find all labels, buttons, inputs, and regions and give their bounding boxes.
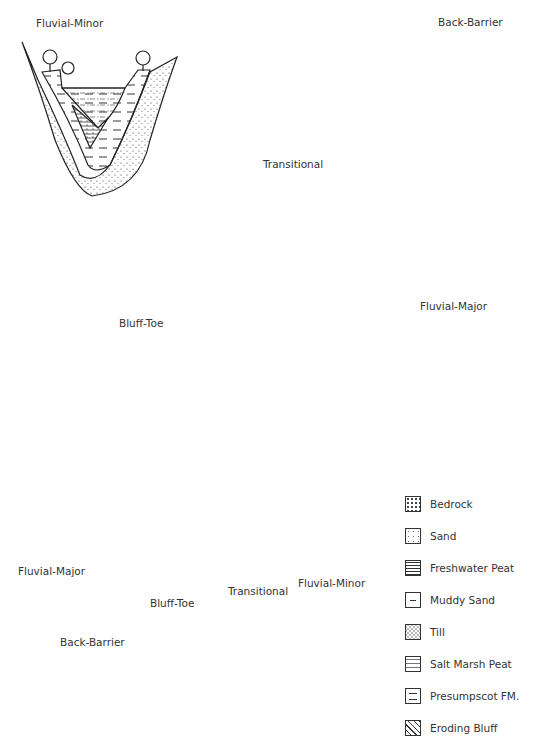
bedrock-swatch-icon bbox=[405, 496, 421, 512]
map-label-fluvial-major: Fluvial-Major bbox=[18, 565, 85, 577]
map-label-bluff-toe: Bluff-Toe bbox=[150, 597, 194, 609]
till-swatch-icon bbox=[405, 624, 421, 640]
fluvial-minor-section bbox=[22, 42, 177, 196]
transitional-title: Transitional bbox=[263, 158, 323, 170]
sand-swatch-icon bbox=[405, 528, 421, 544]
legend-item-salt-marsh-peat: Salt Marsh Peat bbox=[405, 648, 555, 680]
legend-item-muddy-sand: Muddy Sand bbox=[405, 584, 555, 616]
muddy-sand-swatch-icon bbox=[405, 592, 421, 608]
legend-item-sand: Sand bbox=[405, 520, 555, 552]
fluvial-major-title: Fluvial-Major bbox=[420, 300, 487, 312]
legend-item-freshwater-peat: Freshwater Peat bbox=[405, 552, 555, 584]
eroding-bluff-swatch-icon bbox=[405, 720, 421, 736]
legend-item-bedrock: Bedrock bbox=[405, 488, 555, 520]
presumpscot-swatch-icon bbox=[405, 688, 421, 704]
legend-item-till: Till bbox=[405, 616, 555, 648]
map-label-transitional: Transitional bbox=[228, 585, 288, 597]
salt-marsh-peat-swatch-icon bbox=[405, 656, 421, 672]
legend-item-eroding-bluff: Eroding Bluff bbox=[405, 712, 555, 744]
back-barrier-title: Back-Barrier bbox=[438, 16, 503, 28]
fluvial-minor-title: Fluvial-Minor bbox=[36, 17, 103, 29]
freshwater-peat-swatch-icon bbox=[405, 560, 421, 576]
map-label-back-barrier: Back-Barrier bbox=[60, 636, 125, 648]
map-label-fluvial-minor: Fluvial-Minor bbox=[298, 577, 365, 589]
legend: Bedrock Sand Freshwater Peat Muddy Sand … bbox=[405, 488, 555, 744]
bluff-toe-title: Bluff-Toe bbox=[119, 317, 163, 329]
legend-item-presumpscot: Presumpscot FM. bbox=[405, 680, 555, 712]
